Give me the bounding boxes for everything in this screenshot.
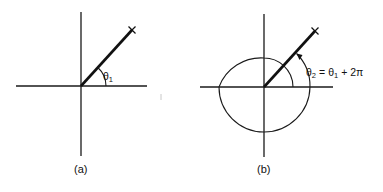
cross-marker-b (312, 28, 319, 35)
theta1-label: θ1 (103, 70, 113, 84)
small-angle-arc-b (284, 66, 293, 87)
cross-marker-a (129, 27, 136, 34)
caption-a: (a) (74, 163, 87, 175)
caption-b: (b) (257, 163, 270, 175)
theta2-equation: θ2=θ1+ 2π (306, 66, 363, 80)
angle-diagram: θ1 (a) θ2=θ1+ 2π (b) (0, 0, 383, 192)
panel-a: θ1 (a) (16, 12, 161, 175)
panel-b: θ2=θ1+ 2π (b) (200, 14, 363, 175)
